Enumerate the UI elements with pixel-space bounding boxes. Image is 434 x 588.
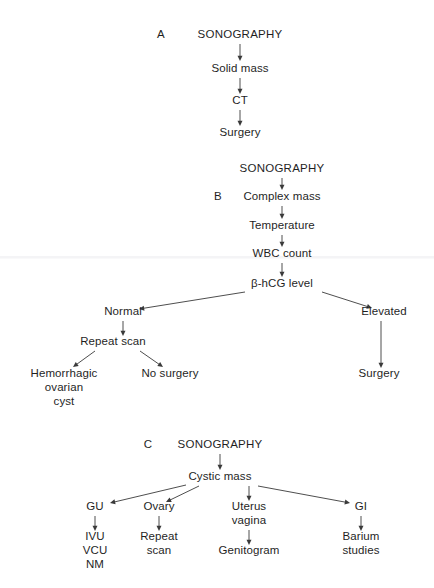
node-C-gi: GI	[355, 500, 367, 512]
node-line: Genitogram	[218, 544, 279, 556]
node-B-elevated: Elevated	[361, 305, 407, 317]
arrowhead-C-cystic-mass-to-gu	[110, 499, 116, 504]
node-line: GU	[86, 500, 103, 512]
node-A-solid-mass: Solid mass	[211, 62, 268, 74]
node-B-sonography: SONOGRAPHY	[240, 162, 325, 174]
node-line: No surgery	[141, 367, 198, 379]
node-line: Temperature	[249, 219, 315, 231]
node-B-bhcg-level: β-hCG level	[251, 277, 313, 289]
node-line: Repeat	[140, 530, 178, 542]
node-line: GI	[355, 500, 367, 512]
flowchart-canvas: SONOGRAPHYSolid massCTSurgeryASONOGRAPHY…	[0, 0, 434, 588]
node-B-wbc-count: WBC count	[252, 247, 312, 259]
node-line: studies	[342, 544, 379, 556]
panel-B: SONOGRAPHYComplex massTemperatureWBC cou…	[31, 162, 407, 407]
node-line: IVU	[85, 530, 104, 542]
node-line: β-hCG level	[251, 277, 313, 289]
node-line: Surgery	[220, 126, 261, 138]
connector-B-bhcg-level-to-normal	[143, 292, 245, 308]
node-A-sonography: SONOGRAPHY	[198, 28, 283, 40]
scan-line-artifact	[0, 256, 434, 259]
node-line: SONOGRAPHY	[178, 438, 263, 450]
node-C-repeat-scan: Repeatscan	[140, 530, 178, 556]
node-line: ovarian	[45, 381, 83, 393]
node-line: VCU	[83, 544, 108, 556]
node-C-ovary: Ovary	[143, 500, 174, 512]
node-line: SONOGRAPHY	[198, 28, 283, 40]
node-B-temperature: Temperature	[249, 219, 315, 231]
arrowhead-C-cystic-mass-to-gi	[344, 500, 350, 505]
node-C-ivu-vcu-nm: IVUVCUNM	[83, 530, 108, 570]
node-line: Barium	[342, 530, 379, 542]
node-line: Repeat scan	[80, 335, 146, 347]
node-line: scan	[147, 544, 172, 556]
node-B-surgery: Surgery	[359, 367, 400, 379]
node-line: Hemorrhagic	[31, 367, 98, 379]
node-A-ct: CT	[232, 94, 248, 106]
node-B-normal: Normal	[104, 305, 142, 317]
node-line: cyst	[54, 395, 76, 407]
node-line: Ovary	[143, 500, 174, 512]
arrowhead-A-sonography-to-solid-mass	[238, 56, 243, 61]
node-B-hemorrhagic-ovarian-cyst: Hemorrhagicovariancyst	[31, 367, 98, 407]
node-line: Cystic mass	[188, 470, 251, 482]
node-C-gu: GU	[86, 500, 103, 512]
flowchart-figure: SONOGRAPHYSolid massCTSurgeryASONOGRAPHY…	[0, 0, 434, 588]
node-line: Surgery	[359, 367, 400, 379]
node-line: vagina	[232, 514, 267, 526]
panel-label-A: A	[157, 28, 165, 40]
panel-label-B: B	[214, 190, 222, 202]
node-C-cystic-mass: Cystic mass	[188, 470, 251, 482]
node-line: Elevated	[361, 305, 407, 317]
node-line: Normal	[104, 305, 142, 317]
panel-label-C: C	[144, 438, 152, 450]
node-B-no-surgery: No surgery	[141, 367, 198, 379]
node-line: NM	[86, 558, 104, 570]
node-line: Uterus	[232, 500, 267, 512]
node-B-repeat-scan: Repeat scan	[80, 335, 146, 347]
panel-C: SONOGRAPHYCystic massGUOvaryUterusvagina…	[83, 438, 380, 570]
node-line: Complex mass	[243, 190, 320, 202]
connector-C-cystic-mass-to-gi	[258, 486, 346, 502]
node-B-complex-mass: Complex mass	[243, 190, 320, 202]
node-line: SONOGRAPHY	[240, 162, 325, 174]
node-C-genitogram: Genitogram	[218, 544, 279, 556]
node-A-surgery: Surgery	[220, 126, 261, 138]
connector-B-repeat-scan-to-no-surgery	[140, 351, 160, 365]
node-C-barium-studies: Bariumstudies	[342, 530, 379, 556]
node-C-uterus-vagina: Uterusvagina	[232, 500, 267, 526]
connector-B-repeat-scan-to-hemorrhagic-ovarian-cyst	[76, 351, 95, 365]
node-line: CT	[232, 94, 248, 106]
panels-layer: SONOGRAPHYSolid massCTSurgeryASONOGRAPHY…	[31, 28, 407, 570]
panel-A: SONOGRAPHYSolid massCTSurgeryA	[157, 28, 282, 138]
node-C-sonography: SONOGRAPHY	[178, 438, 263, 450]
node-line: WBC count	[252, 247, 312, 259]
node-line: Solid mass	[211, 62, 268, 74]
